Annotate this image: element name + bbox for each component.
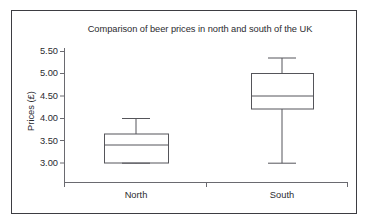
boxplot-figure: Comparison of beer prices in north and s… bbox=[0, 0, 370, 221]
south-box-rect bbox=[252, 74, 314, 110]
north-box-rect bbox=[105, 134, 169, 163]
box-south bbox=[252, 58, 314, 163]
box-north bbox=[105, 119, 169, 164]
y-axis-ticks bbox=[60, 52, 64, 164]
plot-area bbox=[0, 0, 370, 221]
